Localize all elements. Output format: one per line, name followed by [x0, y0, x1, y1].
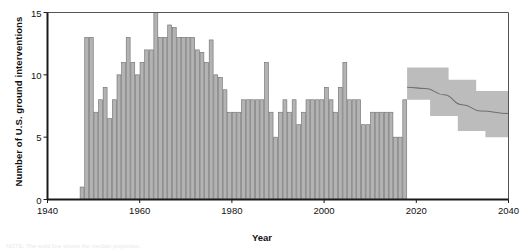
bar [255, 100, 259, 200]
bar [278, 112, 282, 199]
bar [154, 10, 158, 199]
y-tick-label: 10 [20, 69, 42, 80]
bar [99, 100, 103, 200]
bar [274, 137, 278, 199]
forecast-uncertainty-band [407, 67, 508, 137]
bar [209, 40, 213, 200]
bar [149, 50, 153, 200]
bar [265, 62, 269, 199]
bar [334, 112, 338, 199]
bar [315, 100, 319, 200]
x-tick-label: 2000 [314, 205, 335, 216]
chart-figure: Number of U.S. ground interventions Year… [0, 0, 524, 252]
bar [195, 50, 199, 200]
y-axis-title: Number of U.S. ground interventions [13, 2, 24, 202]
bar [301, 112, 305, 199]
bar [158, 37, 162, 199]
bar [371, 112, 375, 199]
bar [375, 112, 379, 199]
bar [398, 137, 402, 199]
bar [357, 100, 361, 200]
bar [112, 100, 116, 200]
x-axis-title: Year [0, 232, 524, 243]
bar [228, 112, 232, 199]
bar [200, 52, 204, 199]
bar [329, 100, 333, 200]
bar [338, 87, 342, 199]
bar [223, 90, 227, 200]
bar [122, 62, 126, 199]
x-tick-label: 2020 [406, 205, 427, 216]
bar [380, 112, 384, 199]
bar [394, 137, 398, 199]
bar [163, 37, 167, 199]
bar [384, 112, 388, 199]
bar [232, 112, 236, 199]
bar [205, 62, 209, 199]
bar [182, 37, 186, 199]
bar-series [80, 10, 407, 199]
bar [348, 100, 352, 200]
bar [366, 125, 370, 200]
bar [237, 112, 241, 199]
bar [191, 37, 195, 199]
bar [343, 62, 347, 199]
x-tick-label: 1940 [37, 205, 58, 216]
y-tick-label: 0 [20, 194, 42, 205]
plot-svg [0, 0, 524, 252]
bar [172, 27, 176, 199]
bar [214, 75, 218, 200]
bar [241, 100, 245, 200]
chart-footnote: NOTE: The solid line shows the median pr… [6, 243, 141, 249]
bar [269, 112, 273, 199]
x-tick-label: 1960 [129, 205, 150, 216]
bar [103, 87, 107, 199]
bar [177, 37, 181, 199]
bar [288, 112, 292, 199]
bar [145, 50, 149, 200]
bar [140, 62, 144, 199]
y-tick-label: 15 [20, 7, 42, 18]
bar [292, 100, 296, 200]
bar [108, 118, 112, 199]
bar [352, 100, 356, 200]
bar [218, 77, 222, 199]
bar [320, 100, 324, 200]
bar [306, 100, 310, 200]
bar [389, 112, 393, 199]
bar [251, 100, 255, 200]
bar [85, 37, 89, 199]
bar [361, 125, 365, 200]
x-tick-label: 2040 [498, 205, 519, 216]
bar [94, 112, 98, 199]
bar [131, 62, 135, 199]
bar [89, 37, 93, 199]
bar [117, 75, 121, 200]
bar [135, 75, 139, 200]
bar [297, 125, 301, 200]
bar [186, 37, 190, 199]
bar [324, 87, 328, 199]
bar [283, 100, 287, 200]
x-tick-label: 1980 [221, 205, 242, 216]
bar [168, 25, 172, 200]
bar [80, 187, 84, 199]
bar [403, 100, 407, 200]
bar [311, 100, 315, 200]
y-tick-label: 5 [20, 132, 42, 143]
bar [246, 100, 250, 200]
bar [260, 100, 264, 200]
bar [126, 37, 130, 199]
